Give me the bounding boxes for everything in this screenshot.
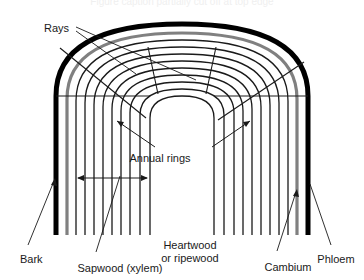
annual-ring-1	[76, 40, 288, 235]
cambium-layer	[67, 33, 297, 235]
tree-trunk-cross-section-diagram	[0, 0, 364, 280]
sapwood-arrowhead-left	[77, 175, 84, 181]
sapwood-arrowhead-right	[141, 175, 148, 181]
rays-group	[60, 47, 304, 120]
bark-leader-group	[28, 178, 57, 245]
annual-rings-arrowhead-right	[243, 121, 250, 127]
label-phloem: Phloem	[154, 253, 364, 266]
phloem-leader-line	[310, 184, 331, 245]
bark-leader-line	[28, 181, 54, 245]
annual-rings-leader-left	[117, 121, 155, 147]
label-rays: Rays	[44, 22, 69, 35]
label-annual-rings: Annual rings	[0, 152, 342, 165]
annual-rings-arrowhead-left	[117, 121, 124, 127]
heartwood-core-outline	[150, 96, 214, 235]
annual-rings-leader-right	[212, 121, 250, 147]
label-heartwood-line1: Heartwood	[8, 239, 364, 252]
annual-rings-group	[76, 40, 288, 235]
annual-ring-4	[103, 61, 261, 235]
annual-rings-leader-group	[117, 121, 250, 147]
